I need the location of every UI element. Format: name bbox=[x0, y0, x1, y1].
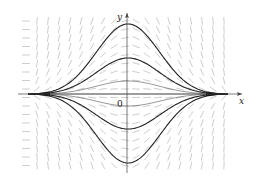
slope-segment bbox=[223, 77, 225, 84]
slope-segment bbox=[145, 154, 149, 159]
slope-segment bbox=[90, 120, 95, 125]
slope-segment bbox=[212, 120, 214, 127]
slope-segment bbox=[133, 45, 140, 48]
slope-segment bbox=[156, 129, 161, 134]
slope-segment bbox=[179, 162, 181, 169]
solution-curve bbox=[28, 94, 228, 106]
slope-segment bbox=[133, 28, 139, 31]
slope-segment bbox=[213, 145, 214, 152]
slope-segment bbox=[101, 35, 105, 41]
slope-segment bbox=[179, 26, 181, 33]
slope-segment bbox=[101, 27, 105, 33]
slope-segment bbox=[46, 78, 50, 84]
slope-segment bbox=[212, 60, 214, 67]
slope-segment bbox=[37, 52, 38, 59]
slope-segment bbox=[177, 104, 183, 108]
slope-segment bbox=[58, 60, 61, 67]
slope-segment bbox=[69, 128, 72, 134]
slope-segment bbox=[189, 120, 192, 126]
slope-segment bbox=[79, 52, 82, 58]
slope-segment bbox=[212, 69, 214, 76]
slope-segment bbox=[156, 145, 160, 151]
slope-segment bbox=[47, 145, 48, 152]
slope-segment bbox=[222, 95, 227, 100]
slope-segment bbox=[133, 37, 139, 40]
slope-segment bbox=[111, 45, 117, 49]
slope-segment bbox=[80, 43, 83, 49]
slope-segment bbox=[212, 111, 214, 118]
slope-segment bbox=[212, 137, 213, 144]
slope-segment bbox=[91, 26, 94, 32]
slope-segment bbox=[156, 35, 159, 41]
slope-segment bbox=[69, 137, 71, 144]
slope-segment bbox=[190, 26, 191, 33]
slope-segment bbox=[100, 129, 105, 134]
slope-segment bbox=[37, 154, 38, 161]
slope-segment bbox=[211, 103, 215, 109]
slope-segment bbox=[224, 120, 225, 127]
slope-segment bbox=[155, 121, 160, 126]
slope-field-chart: x y 0 bbox=[0, 0, 260, 186]
slope-segment bbox=[37, 26, 38, 33]
slope-segment bbox=[190, 162, 191, 169]
slope-segment bbox=[213, 26, 214, 33]
slope-segment bbox=[48, 18, 49, 25]
y-axis-label: y bbox=[116, 12, 123, 22]
slope-segment bbox=[58, 120, 61, 126]
slope-segment bbox=[144, 53, 150, 57]
slope-segment bbox=[100, 61, 106, 65]
slope-segment bbox=[45, 87, 51, 90]
slope-segment bbox=[91, 18, 93, 25]
slope-segment bbox=[190, 60, 193, 66]
slope-segment bbox=[179, 43, 181, 50]
slope-segment bbox=[201, 128, 203, 135]
slope-segment bbox=[68, 112, 72, 118]
slope-segment bbox=[100, 121, 106, 125]
slope-segment bbox=[100, 70, 106, 73]
slope-segment bbox=[224, 60, 225, 67]
slope-segment bbox=[91, 162, 93, 169]
slope-segment bbox=[188, 104, 193, 109]
slope-segment bbox=[80, 145, 82, 152]
slope-segment bbox=[36, 77, 39, 83]
slope-segment bbox=[67, 97, 74, 99]
slope-segment bbox=[201, 162, 202, 169]
slope-segment bbox=[145, 163, 149, 169]
slope-segment bbox=[68, 120, 71, 126]
slope-segment bbox=[34, 87, 39, 92]
slope-segment bbox=[133, 155, 139, 158]
slope-segment bbox=[168, 26, 170, 33]
slope-segment bbox=[101, 162, 104, 168]
slope-segment bbox=[188, 78, 193, 83]
slope-segment bbox=[200, 69, 203, 75]
slope-segment bbox=[144, 71, 150, 74]
slope-segment bbox=[37, 162, 38, 169]
slope-segment bbox=[36, 69, 38, 76]
slope-segment bbox=[122, 55, 129, 56]
slope-segment bbox=[58, 137, 60, 144]
slope-segment bbox=[168, 162, 170, 169]
slope-segment bbox=[58, 128, 60, 135]
slope-segment bbox=[177, 88, 184, 90]
slope-segment bbox=[57, 111, 61, 117]
slope-segment bbox=[58, 162, 59, 169]
slope-segment bbox=[37, 43, 38, 50]
slope-segment bbox=[69, 35, 71, 42]
slope-segment bbox=[211, 77, 214, 83]
slope-segment bbox=[111, 36, 116, 40]
slope-segment bbox=[210, 96, 216, 99]
slope-segment bbox=[111, 130, 117, 133]
slope-segment bbox=[189, 69, 193, 75]
slope-segment bbox=[122, 29, 129, 30]
slope-segment bbox=[201, 35, 202, 42]
slope-segment bbox=[58, 145, 60, 152]
slope-segment bbox=[68, 69, 72, 75]
slope-segment bbox=[80, 162, 82, 169]
slope-segment bbox=[167, 129, 171, 135]
slope-segment bbox=[224, 69, 225, 76]
slope-segment bbox=[80, 18, 82, 25]
slope-segment bbox=[122, 156, 129, 157]
slope-segment bbox=[155, 61, 160, 66]
slope-segment bbox=[80, 26, 82, 33]
slope-segment bbox=[190, 43, 192, 50]
